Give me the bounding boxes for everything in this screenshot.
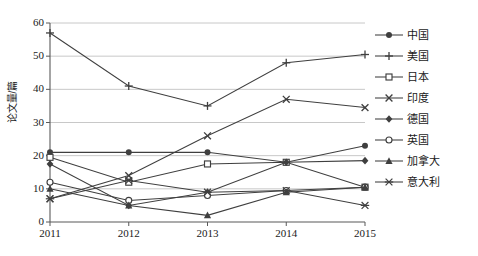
data-point-plus <box>204 102 212 110</box>
data-point-plus <box>282 59 290 67</box>
legend-label: 印度 <box>404 92 429 104</box>
data-point-plus <box>361 51 369 59</box>
legend-marker-open-square-icon <box>374 70 404 84</box>
legend-label: 意大利 <box>404 176 440 188</box>
data-point-filled-diamond <box>47 160 54 168</box>
data-point-filled-circle <box>126 149 132 155</box>
data-point-filled-circle <box>205 149 211 155</box>
data-point-open-square <box>205 161 211 167</box>
legend-item-0[interactable]: 中国 <box>374 24 440 45</box>
data-point-asterisk <box>361 202 369 209</box>
data-point-filled-diamond <box>386 115 393 123</box>
legend-label: 美国 <box>404 50 429 62</box>
data-point-plus <box>125 82 133 90</box>
legend-label: 英国 <box>404 134 429 146</box>
legend: 中国美国日本印度德国英国加拿大意大利 <box>374 24 440 192</box>
data-point-open-circle <box>386 137 392 143</box>
legend-marker-filled-diamond-icon <box>374 112 404 126</box>
paper-count-line-chart: 论文量/篇 0102030405060 20112012201320142015… <box>0 0 478 256</box>
legend-label: 日本 <box>404 71 429 83</box>
legend-item-2[interactable]: 日本 <box>374 66 440 87</box>
legend-item-5[interactable]: 英国 <box>374 129 440 150</box>
legend-item-4[interactable]: 德国 <box>374 108 440 129</box>
series-1 <box>46 29 369 110</box>
data-point-open-circle <box>47 179 53 185</box>
data-point-open-square <box>47 154 53 160</box>
data-point-open-square <box>386 74 392 80</box>
legend-label: 中国 <box>404 29 429 41</box>
data-point-cross <box>204 132 211 139</box>
data-point-plus <box>385 52 393 60</box>
data-point-filled-circle <box>386 32 392 38</box>
series-2 <box>47 154 368 190</box>
legend-marker-cross-icon <box>374 91 404 105</box>
legend-marker-filled-circle-icon <box>374 28 404 42</box>
legend-marker-filled-triangle-icon <box>374 154 404 168</box>
legend-item-7[interactable]: 意大利 <box>374 171 440 192</box>
data-point-plus <box>46 29 54 37</box>
legend-item-3[interactable]: 印度 <box>374 87 440 108</box>
data-point-asterisk <box>385 178 393 185</box>
legend-label: 德国 <box>404 113 429 125</box>
data-point-open-circle <box>205 192 211 198</box>
series-3 <box>47 96 369 202</box>
legend-item-6[interactable]: 加拿大 <box>374 150 440 171</box>
legend-marker-plus-icon <box>374 49 404 63</box>
data-point-filled-circle <box>362 143 368 149</box>
legend-label: 加拿大 <box>404 155 440 167</box>
legend-marker-open-circle-icon <box>374 133 404 147</box>
legend-marker-asterisk-icon <box>374 175 404 189</box>
data-point-filled-diamond <box>362 157 369 165</box>
legend-item-1[interactable]: 美国 <box>374 45 440 66</box>
